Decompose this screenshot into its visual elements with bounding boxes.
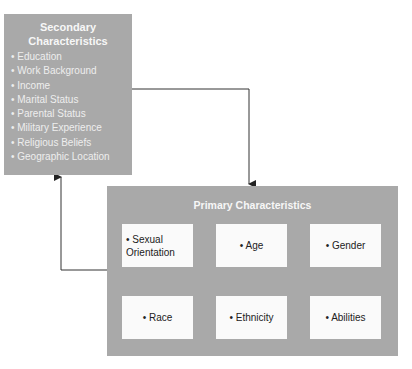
list-item: Geographic Location: [11, 150, 126, 164]
item-label: Age: [240, 239, 264, 252]
list-item: Work Background: [11, 64, 126, 78]
secondary-list: Education Work Background Income Marital…: [10, 50, 126, 164]
item-label: Ethnicity: [229, 311, 273, 324]
primary-item-sexual-orientation: Sexual Orientation: [122, 224, 193, 267]
secondary-characteristics-box: Secondary Characteristics Education Work…: [4, 14, 132, 175]
list-item: Religious Beliefs: [11, 136, 126, 150]
list-item: Parental Status: [11, 107, 126, 121]
item-label: Gender: [326, 239, 366, 252]
primary-item-gender: Gender: [310, 224, 381, 267]
list-item: Military Experience: [11, 121, 126, 135]
primary-item-age: Age: [216, 224, 287, 267]
list-item: Income: [11, 79, 126, 93]
list-item: Marital Status: [11, 93, 126, 107]
primary-item-ethnicity: Ethnicity: [216, 296, 287, 339]
arrow-secondary-to-primary: [132, 89, 249, 184]
item-label: Abilities: [325, 311, 365, 324]
arrow-primary-to-secondary: [61, 177, 107, 270]
secondary-title: Secondary Characteristics: [10, 20, 126, 48]
primary-item-race: Race: [122, 296, 193, 339]
primary-characteristics-box: Primary Characteristics Sexual Orientati…: [107, 186, 398, 356]
item-label: Race: [143, 311, 173, 324]
list-item: Education: [11, 50, 126, 64]
primary-title: Primary Characteristics: [107, 199, 398, 211]
item-label: Sexual Orientation: [126, 233, 189, 259]
primary-item-abilities: Abilities: [310, 296, 381, 339]
